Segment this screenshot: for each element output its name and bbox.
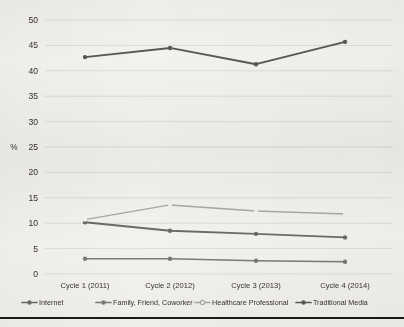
x-tick-label: Cycle 3 (2013) — [231, 281, 281, 290]
x-tick-label: Cycle 2 (2012) — [145, 281, 195, 290]
legend-item-family-friend-coworker[interactable]: Family, Friend, Coworker — [96, 298, 193, 307]
data-point — [83, 257, 87, 261]
data-point — [83, 218, 87, 222]
legend-marker — [27, 300, 31, 304]
legend: InternetFamily, Friend, CoworkerHealthca… — [22, 298, 368, 307]
y-axis-title: % — [10, 143, 17, 152]
y-tick-label: 40 — [28, 66, 38, 76]
data-point — [168, 203, 172, 207]
series-family-friend-coworker — [83, 257, 347, 264]
y-tick-label: 10 — [28, 218, 38, 228]
legend-item-traditional-media[interactable]: Traditional Media — [296, 298, 368, 307]
y-tick-label: 0 — [33, 269, 38, 279]
y-tick-label: 25 — [28, 142, 38, 152]
x-axis-ticks: Cycle 1 (2011)Cycle 2 (2012)Cycle 3 (201… — [61, 281, 371, 290]
data-point — [254, 209, 258, 213]
data-point — [168, 46, 172, 50]
data-point — [168, 229, 172, 233]
y-tick-label: 20 — [28, 167, 38, 177]
data-point — [168, 257, 172, 261]
legend-label: Healthcare Professional — [212, 298, 289, 307]
data-point — [343, 212, 347, 216]
legend-label: Internet — [39, 298, 63, 307]
data-point — [254, 232, 258, 236]
chart-canvas: 05101520253035404550%Cycle 1 (2011)Cycle… — [0, 0, 404, 327]
series-group — [83, 40, 347, 264]
legend-marker — [101, 300, 105, 304]
legend-marker — [301, 300, 305, 304]
y-tick-label: 15 — [28, 193, 38, 203]
data-point — [343, 235, 347, 239]
series-traditional-media — [83, 40, 347, 67]
legend-marker — [200, 300, 204, 304]
legend-item-healthcare-professional[interactable]: Healthcare Professional — [195, 298, 289, 307]
x-tick-label: Cycle 4 (2014) — [320, 281, 370, 290]
series-line — [85, 259, 345, 262]
data-point — [343, 40, 347, 44]
y-axis-ticks: 05101520253035404550 — [28, 15, 38, 279]
data-point — [254, 259, 258, 263]
y-tick-label: 35 — [28, 91, 38, 101]
legend-item-internet[interactable]: Internet — [22, 298, 63, 307]
x-tick-label: Cycle 1 (2011) — [61, 281, 110, 290]
legend-label: Family, Friend, Coworker — [113, 298, 193, 307]
legend-label: Traditional Media — [313, 298, 368, 307]
data-point — [254, 62, 258, 66]
series-line — [85, 205, 345, 220]
y-tick-label: 30 — [28, 117, 38, 127]
y-tick-label: 45 — [28, 40, 38, 50]
line-chart: 05101520253035404550%Cycle 1 (2011)Cycle… — [0, 0, 404, 327]
series-healthcare-professional — [83, 203, 347, 222]
y-tick-label: 50 — [28, 15, 38, 25]
series-line — [85, 222, 345, 237]
data-point — [83, 55, 87, 59]
data-point — [343, 260, 347, 264]
y-tick-label: 5 — [33, 244, 38, 254]
